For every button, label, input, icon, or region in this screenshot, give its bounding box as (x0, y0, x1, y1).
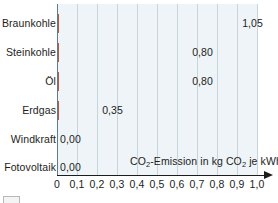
x-tick-label: 0,5 (150, 178, 165, 190)
x-axis-title: CO2-Emission in kg CO2 je kWh (130, 155, 278, 167)
bar-row: 1,05 (57, 14, 267, 33)
category-label: Windkraft (11, 133, 56, 145)
bar-value-label: 0,00 (60, 161, 81, 173)
category-label: Braunkohle (2, 17, 56, 29)
category-label: Öl (45, 75, 56, 87)
x-axis-title-sub-2: 2 (242, 160, 246, 169)
x-tick-label: 1,0 (250, 178, 265, 190)
bar-value-label: 1,05 (242, 17, 263, 29)
bar-value-label: 0,80 (192, 75, 213, 87)
x-tick-label: 0 (54, 178, 60, 190)
x-axis-line (57, 175, 266, 176)
legend-swatch-fragment (3, 196, 20, 203)
bar-row: 0,35 (57, 101, 127, 120)
category-label: Erdgas (22, 104, 56, 116)
bar-row: 0,80 (57, 43, 217, 62)
bar-value-label: 0,00 (60, 133, 81, 145)
x-tick-label: 0,4 (130, 178, 145, 190)
x-tick-label: 0,8 (210, 178, 225, 190)
bar-chart: 1,050,800,800,350,000,00 BraunkohleStein… (0, 0, 278, 203)
x-tick-label: 0,6 (170, 178, 185, 190)
x-tick-label: 0,3 (110, 178, 125, 190)
category-label: Fotovoltaik (4, 161, 56, 173)
x-axis-title-part-1: CO (130, 155, 146, 167)
bar-row: 0,80 (57, 72, 217, 91)
x-axis-title-part-3: je kWh (246, 155, 278, 167)
x-tick-label: 0,9 (230, 178, 245, 190)
x-tick-label: 0,1 (70, 178, 85, 190)
y-axis-line (57, 4, 58, 176)
x-axis-arrow-icon (264, 171, 273, 179)
x-axis-title-sub-1: 2 (146, 160, 150, 169)
bar-value-label: 0,35 (102, 104, 123, 116)
bar-value-label: 0,80 (192, 46, 213, 58)
category-label: Steinkohle (6, 46, 56, 58)
x-axis-title-part-2: -Emission in kg CO (150, 155, 242, 167)
x-tick-label: 0,7 (190, 178, 205, 190)
x-tick-label: 0,2 (90, 178, 105, 190)
